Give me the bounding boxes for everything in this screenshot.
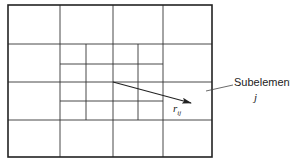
outer-border <box>8 5 212 157</box>
subelement-leader-line <box>206 85 233 91</box>
subelement-index-j: j <box>254 91 257 103</box>
grid-lines <box>8 5 212 157</box>
vector-label-r-ij: rij <box>173 102 181 117</box>
subelement-label: Subelement <box>234 76 290 88</box>
r-ij-vector-arrow <box>113 82 191 103</box>
vector-subscript: ij <box>177 109 181 117</box>
